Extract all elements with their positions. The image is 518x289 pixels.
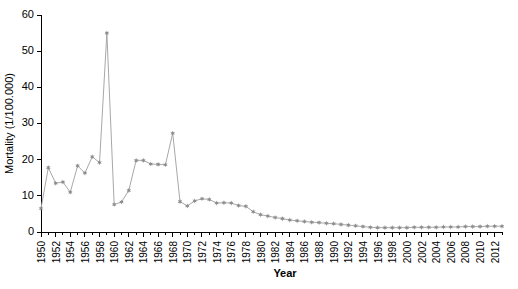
x-axis-tick-label: 1964 xyxy=(138,241,149,264)
x-axis-tick-label: 1992 xyxy=(343,241,354,264)
data-point-marker xyxy=(185,203,190,208)
y-axis-tick-label: 40 xyxy=(22,80,34,92)
data-point-marker xyxy=(46,165,51,170)
mortality-line-chart: 0102030405060Mortality (1/100.000)195019… xyxy=(0,0,518,289)
x-axis-tick-label: 1982 xyxy=(270,241,281,264)
y-axis-tick-label: 10 xyxy=(22,189,34,201)
data-point-marker xyxy=(170,131,175,136)
x-axis-tick-label: 1960 xyxy=(109,241,120,264)
x-axis-tick-label: 2002 xyxy=(417,241,428,264)
x-axis-tick-label: 1950 xyxy=(36,241,47,264)
x-axis-tick-label: 2006 xyxy=(446,241,457,264)
x-axis-tick-label: 1988 xyxy=(314,241,325,264)
x-axis-tick-label: 1970 xyxy=(182,241,193,264)
x-axis-tick-label: 1978 xyxy=(241,241,252,264)
x-axis-tick-label: 1986 xyxy=(299,241,310,264)
x-axis-tick-label: 1984 xyxy=(285,241,296,264)
y-axis-tick-label: 0 xyxy=(28,225,34,237)
x-axis-title: Year xyxy=(273,267,297,279)
x-axis-tick-label: 1972 xyxy=(197,241,208,264)
x-axis-tick-label: 1966 xyxy=(153,241,164,264)
x-axis-tick-label: 2004 xyxy=(431,241,442,264)
x-axis-tick-label: 2012 xyxy=(490,241,501,264)
y-axis-tick-label: 60 xyxy=(22,8,34,20)
chart-canvas: 0102030405060Mortality (1/100.000)195019… xyxy=(0,0,518,289)
y-axis-tick-label: 20 xyxy=(22,153,34,165)
x-axis-tick-label: 1952 xyxy=(51,241,62,264)
x-axis-tick-label: 1962 xyxy=(124,241,135,264)
data-point-marker xyxy=(251,209,256,214)
x-axis-tick-label: 1968 xyxy=(168,241,179,264)
x-axis-tick-label: 2008 xyxy=(460,241,471,264)
x-axis-tick-label: 1998 xyxy=(387,241,398,264)
data-point-marker xyxy=(105,30,110,35)
x-axis-tick-label: 1990 xyxy=(329,241,340,264)
data-series-line xyxy=(41,33,502,228)
x-axis-tick-label: 1994 xyxy=(358,241,369,264)
x-axis-tick-label: 2000 xyxy=(402,241,413,264)
data-point-marker xyxy=(178,199,183,204)
x-axis-tick-label: 1954 xyxy=(65,241,76,264)
data-point-marker xyxy=(39,206,44,211)
y-axis-tick-label: 50 xyxy=(22,44,34,56)
x-axis-tick-label: 1980 xyxy=(256,241,267,264)
x-axis-tick-label: 2010 xyxy=(475,241,486,264)
x-axis-tick-label: 1976 xyxy=(226,241,237,264)
x-axis-tick-label: 1958 xyxy=(95,241,106,264)
y-axis-tick-label: 30 xyxy=(22,116,34,128)
y-axis-title: Mortality (1/100.000) xyxy=(3,73,15,174)
x-axis-tick-label: 1974 xyxy=(212,241,223,264)
data-point-marker xyxy=(112,202,117,207)
x-axis-tick-label: 1996 xyxy=(373,241,384,264)
x-axis-tick-label: 1956 xyxy=(80,241,91,264)
